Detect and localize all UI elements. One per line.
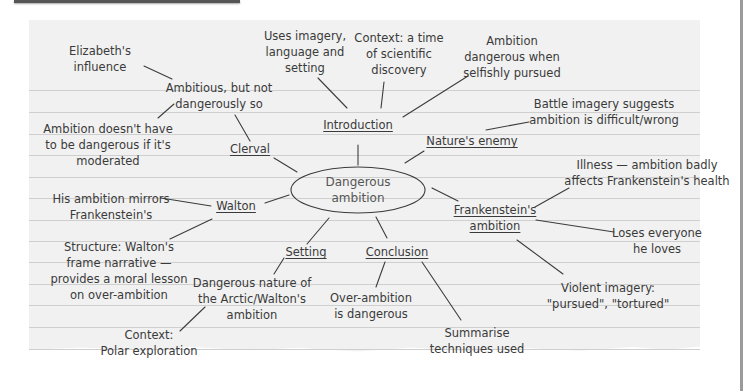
note-line: His ambition mirrors: [52, 191, 169, 207]
note-line: Summarise: [430, 325, 525, 341]
note-line: provides a moral lesson: [51, 271, 188, 287]
note-line: frame narrative —: [51, 255, 188, 271]
note-summarise-techniques: Summarise techniques used: [430, 325, 525, 357]
note-loses-everyone: Loses everyone he loves: [612, 225, 702, 257]
branch-label-line: ambition: [454, 218, 537, 234]
note-polar-exploration: Context: Polar exploration: [100, 327, 197, 359]
branch-setting: Setting: [285, 244, 326, 260]
note-line: Elizabeth's: [69, 43, 131, 59]
note-line: ambition is difficult/wrong: [529, 112, 679, 128]
central-topic: Dangerous ambition: [325, 174, 390, 206]
mind-map-page: Always keep n: [0, 0, 743, 391]
note-line: selfishly pursued: [463, 65, 560, 81]
note-line: affects Frankenstein's health: [564, 173, 729, 189]
note-line: Polar exploration: [100, 343, 197, 359]
note-ambition-mirrors: His ambition mirrors Frankenstein's: [52, 191, 169, 223]
note-line: language and: [264, 44, 346, 60]
note-line: Context:: [100, 327, 197, 343]
note-line: the Arctic/Walton's: [193, 291, 311, 307]
note-ambition-selfishly-pursued: Ambition dangerous when selfishly pursue…: [463, 33, 560, 81]
note-battle-imagery: Battle imagery suggests ambition is diff…: [529, 96, 679, 128]
branch-introduction: Introduction: [323, 117, 393, 133]
note-line: to be dangerous if it's: [43, 137, 172, 153]
note-line: is dangerous: [330, 306, 412, 322]
note-line: Structure: Walton's: [51, 239, 188, 255]
note-line: setting: [264, 60, 346, 76]
note-line: Ambitious, but not: [166, 80, 272, 96]
note-line: influence: [69, 59, 131, 75]
branch-natures-enemy: Nature's enemy: [426, 133, 517, 149]
note-line: Battle imagery suggests: [529, 96, 679, 112]
central-topic-line: Dangerous: [325, 174, 390, 190]
note-uses-imagery: Uses imagery, language and setting: [264, 28, 346, 76]
note-ambition-moderated: Ambition doesn't have to be dangerous if…: [43, 121, 172, 169]
note-context-scientific-discovery: Context: a time of scientific discovery: [354, 30, 443, 78]
branch-frankensteins-ambition: Frankenstein's ambition: [454, 202, 537, 234]
note-line: discovery: [354, 62, 443, 78]
note-line: Uses imagery,: [264, 28, 346, 44]
note-line: dangerous when: [463, 49, 560, 65]
note-ambitious-not-dangerously: Ambitious, but not dangerously so: [166, 80, 272, 112]
note-line: on over-ambition: [51, 287, 188, 303]
branch-conclusion: Conclusion: [366, 244, 429, 260]
note-line: Ambition doesn't have: [43, 121, 172, 137]
note-illness: Illness — ambition badly affects Franken…: [564, 157, 729, 189]
branch-clerval: Clerval: [230, 141, 270, 157]
note-line: Loses everyone: [612, 225, 702, 241]
note-violent-imagery: Violent imagery: "pursued", "tortured": [547, 280, 669, 312]
note-line: dangerously so: [166, 96, 272, 112]
note-line: moderated: [43, 153, 172, 169]
central-topic-line: ambition: [325, 190, 390, 206]
note-line: Over-ambition: [330, 290, 412, 306]
note-line: he loves: [612, 241, 702, 257]
note-structure-frame-narrative: Structure: Walton's frame narrative — pr…: [51, 239, 188, 303]
note-elizabeths-influence: Elizabeth's influence: [69, 43, 131, 75]
note-dangerous-nature-arctic: Dangerous nature of the Arctic/Walton's …: [193, 275, 311, 323]
note-line: of scientific: [354, 46, 443, 62]
note-line: techniques used: [430, 341, 525, 357]
note-line: Ambition: [463, 33, 560, 49]
branch-label-line: Frankenstein's: [454, 202, 537, 218]
note-line: Dangerous nature of: [193, 275, 311, 291]
note-over-ambition-dangerous: Over-ambition is dangerous: [330, 290, 412, 322]
note-line: Illness — ambition badly: [564, 157, 729, 173]
note-line: Frankenstein's: [52, 207, 169, 223]
note-line: "pursued", "tortured": [547, 296, 669, 312]
note-line: ambition: [193, 307, 311, 323]
branch-walton: Walton: [216, 198, 256, 214]
note-line: Violent imagery:: [547, 280, 669, 296]
note-line: Context: a time: [354, 30, 443, 46]
